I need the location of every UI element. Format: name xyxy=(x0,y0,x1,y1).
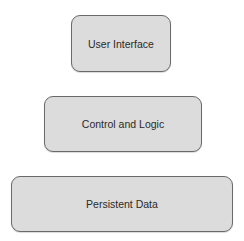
layer-label: User Interface xyxy=(88,38,154,50)
layer-user-interface: User Interface xyxy=(71,15,171,72)
layer-persistent-data: Persistent Data xyxy=(11,176,233,232)
layer-control-and-logic: Control and Logic xyxy=(44,96,202,152)
layer-label: Control and Logic xyxy=(82,118,164,130)
layer-label: Persistent Data xyxy=(86,198,158,210)
